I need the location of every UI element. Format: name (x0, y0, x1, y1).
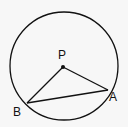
label-p: P (58, 48, 66, 62)
segment-ba (27, 90, 108, 103)
geometry-diagram: P A B (0, 0, 128, 127)
segment-pa (63, 67, 108, 90)
label-b: B (13, 105, 21, 119)
label-a: A (109, 90, 117, 104)
center-point-p (61, 65, 65, 69)
